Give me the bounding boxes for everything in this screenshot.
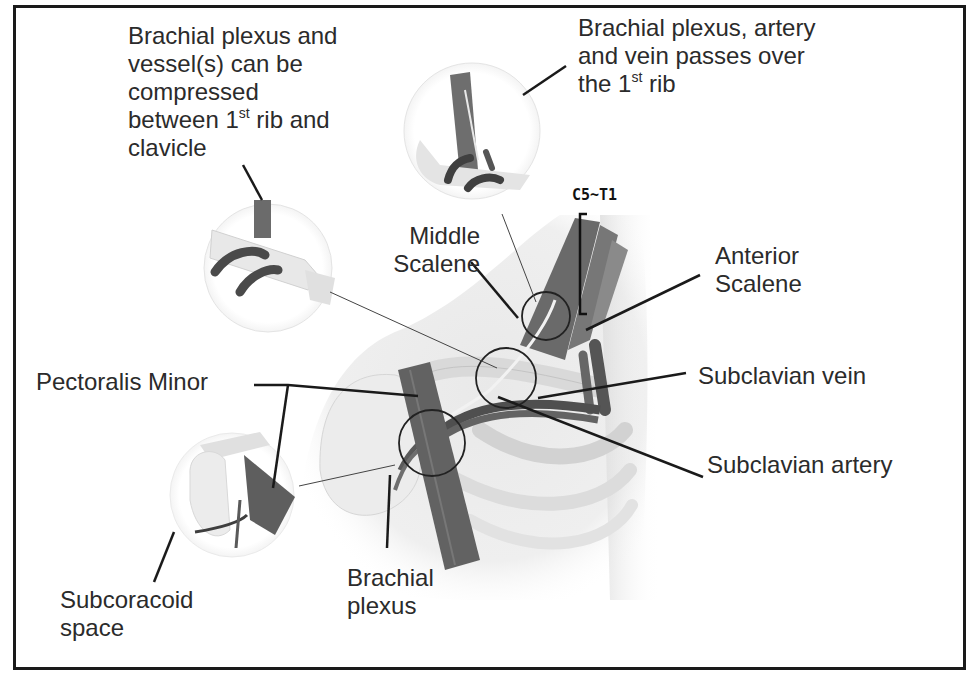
inset-subcoracoid [170, 432, 295, 557]
inset-interscalene [404, 63, 540, 199]
anterior-scalene-label: Anterior Scalene [715, 242, 802, 298]
pectoralis-minor-label: Pectoralis Minor [36, 368, 208, 396]
nerve-roots-label: C5~T1 [572, 186, 617, 204]
compression-note-label: Brachial plexus and vessel(s) can be com… [128, 22, 337, 162]
middle-scalene-label: Middle Scalene [388, 222, 480, 278]
subcoracoid-space-label: Subcoracoid space [60, 586, 193, 642]
subclavian-vein-label: Subclavian vein [698, 362, 866, 390]
brachial-plexus-label: Brachial plexus [347, 564, 434, 620]
passes-over-note-label: Brachial plexus, artery and vein passes … [578, 14, 815, 98]
subclavian-artery-label: Subclavian artery [707, 451, 892, 479]
inset-costoclavicular [204, 200, 335, 332]
